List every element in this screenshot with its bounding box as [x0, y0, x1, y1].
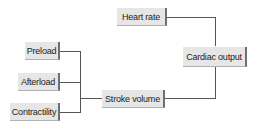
node-heart-rate: Heart rate [117, 8, 167, 26]
node-cardiac-output: Cardiac output [183, 47, 247, 67]
connector-stroke-volume [165, 98, 216, 99]
connector-preload [60, 51, 81, 52]
connector-heart-rate-down [215, 17, 216, 46]
node-contractility: Contractility [10, 103, 60, 121]
connector-contractility [60, 112, 81, 113]
node-afterload: Afterload [18, 73, 60, 91]
connector-bracket [80, 51, 81, 113]
node-stroke-volume: Stroke volume [102, 90, 165, 108]
connector-to-stroke-volume [80, 98, 102, 99]
connector-afterload [60, 82, 81, 83]
node-preload: Preload [25, 42, 60, 60]
connector-stroke-volume-up [215, 67, 216, 99]
connector-heart-rate [167, 17, 216, 18]
